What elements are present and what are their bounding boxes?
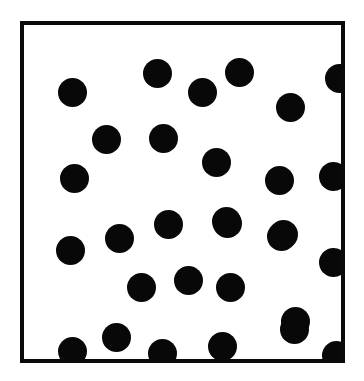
scatter-point [148,339,177,360]
scatter-point [127,273,156,302]
scatter-point [154,210,183,239]
figure-canvas [0,0,364,381]
scatter-point [58,78,87,107]
scatter-point [188,78,217,107]
scatter-plot-area [24,25,341,359]
scatter-point [208,332,237,360]
scatter-point [225,58,254,87]
scatter-point [102,323,131,352]
scatter-point [280,315,309,344]
scatter-point [56,236,85,265]
scatter-point [149,124,178,153]
scatter-point [58,337,87,360]
scatter-point [276,93,305,122]
scatter-point [265,166,294,195]
scatter-point [143,59,172,88]
scatter-point [269,220,298,249]
square-border [20,21,345,363]
scatter-point [60,164,89,193]
scatter-point [105,224,134,253]
scatter-point [216,273,245,302]
scatter-point [319,162,342,191]
scatter-point [92,125,121,154]
scatter-point [319,248,342,277]
scatter-point [322,341,342,360]
scatter-point [202,148,231,177]
scatter-point [325,64,342,93]
scatter-point [174,266,203,295]
scatter-point [213,209,242,238]
